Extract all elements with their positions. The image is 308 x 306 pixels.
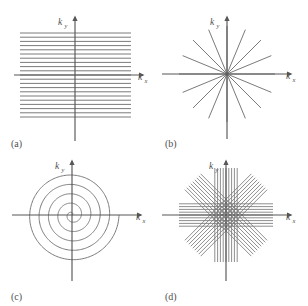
panel-c-label: (c) bbox=[11, 291, 22, 302]
panel-a-axes bbox=[14, 16, 145, 142]
panel-d-kx-subscript: x bbox=[292, 217, 296, 224]
panel-c-ky-subscript: y bbox=[61, 166, 65, 173]
panel-a-ky-label: k bbox=[58, 17, 63, 27]
panel-d-plot: k y k x bbox=[154, 153, 308, 306]
panel-b-plot: k y k x bbox=[154, 0, 308, 153]
panel-a-kx-subscript: x bbox=[144, 77, 148, 84]
axis-arrowhead bbox=[72, 16, 77, 22]
panel-b-label: (b) bbox=[165, 138, 177, 149]
panel-c-plot: k y k x bbox=[0, 153, 154, 306]
spiral-path bbox=[30, 175, 119, 260]
panel-a-plot: k y k x bbox=[0, 0, 154, 153]
panel-c: k y k x (c) bbox=[0, 153, 154, 306]
panel-c-axes bbox=[12, 160, 143, 282]
panel-a-kx-label: k bbox=[138, 72, 143, 82]
panel-b: k y k x (b) bbox=[154, 0, 308, 153]
panel-d-kx-label: k bbox=[286, 212, 291, 222]
panel-b-kx-label: k bbox=[286, 71, 291, 81]
panel-a: k y k x (a) bbox=[0, 0, 154, 153]
panel-c-kx-subscript: x bbox=[142, 217, 146, 224]
panel-a-ky-subscript: y bbox=[64, 22, 68, 29]
panel-a-label: (a) bbox=[11, 138, 22, 149]
axis-arrowhead bbox=[69, 160, 74, 166]
kspace-trajectory-figure: k y k x (a) k y k x (b) k y k x (c) bbox=[0, 0, 308, 306]
panel-d-ky-label: k bbox=[209, 161, 214, 171]
panel-b-kx-subscript: x bbox=[292, 76, 296, 83]
panel-b-ky-subscript: y bbox=[216, 22, 220, 29]
panel-b-ky-label: k bbox=[210, 17, 215, 27]
panel-c-kx-label: k bbox=[136, 212, 141, 222]
panel-b-axes bbox=[162, 16, 293, 140]
panel-d-ky-subscript: y bbox=[215, 166, 219, 173]
panel-d: k y k x (d) bbox=[154, 153, 308, 306]
axis-arrowhead bbox=[224, 16, 229, 22]
panel-c-ky-label: k bbox=[55, 161, 60, 171]
spiral-curve bbox=[30, 175, 119, 260]
axis-arrowhead bbox=[223, 160, 228, 166]
panel-d-label: (d) bbox=[165, 291, 177, 302]
